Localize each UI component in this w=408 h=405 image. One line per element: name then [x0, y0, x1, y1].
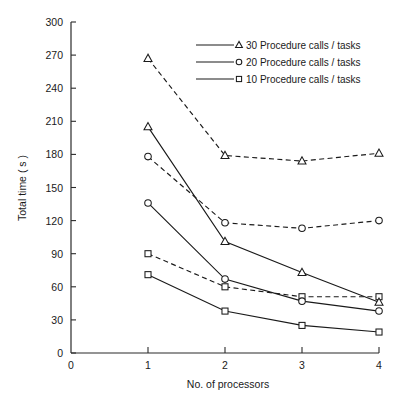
x-axis-ticks: 01234: [68, 347, 382, 371]
y-tick-label: 180: [45, 148, 63, 160]
y-tick-label: 210: [45, 115, 63, 127]
series-polyline: [148, 275, 379, 332]
x-axis-title: No. of processors: [187, 378, 269, 390]
chart-container: 0306090120150180210240270300 01234 Total…: [0, 0, 408, 405]
data-point-square: [299, 322, 305, 328]
series-0: [144, 54, 383, 164]
data-point-circle: [222, 220, 229, 227]
data-point-triangle: [221, 237, 229, 244]
y-axis-title: Total time ( s ): [16, 155, 28, 221]
chart-legend: 30 Procedure calls / tasks20 Procedure c…: [196, 40, 361, 85]
legend-label: 20 Procedure calls / tasks: [246, 57, 361, 68]
data-point-triangle: [144, 54, 152, 61]
series-polyline: [148, 127, 379, 302]
x-tick-label: 2: [222, 359, 228, 371]
legend-label: 30 Procedure calls / tasks: [246, 40, 361, 51]
data-point-triangle: [375, 149, 383, 156]
data-point-square: [376, 329, 382, 335]
series-2: [145, 251, 382, 300]
data-point-square: [236, 76, 241, 81]
x-tick-label: 1: [145, 359, 151, 371]
y-tick-label: 30: [51, 314, 63, 326]
line-chart: 0306090120150180210240270300 01234 Total…: [0, 0, 408, 405]
y-tick-label: 60: [51, 281, 63, 293]
legend-item-2: 10 Procedure calls / tasks: [196, 74, 361, 85]
series-5: [145, 272, 382, 335]
x-tick-label: 4: [376, 359, 382, 371]
y-tick-label: 240: [45, 82, 63, 94]
data-point-circle: [236, 59, 242, 65]
data-point-circle: [145, 200, 152, 207]
data-point-square: [145, 251, 151, 257]
legend-label: 10 Procedure calls / tasks: [246, 74, 361, 85]
data-point-circle: [376, 308, 383, 315]
y-tick-label: 150: [45, 182, 63, 194]
data-point-square: [222, 284, 228, 290]
data-point-circle: [376, 217, 383, 224]
data-point-circle: [145, 153, 152, 160]
data-point-square: [145, 272, 151, 278]
data-point-square: [222, 308, 228, 314]
y-tick-label: 120: [45, 215, 63, 227]
data-point-circle: [299, 298, 306, 305]
y-tick-label: 270: [45, 49, 63, 61]
series-3: [144, 123, 383, 306]
legend-item-0: 30 Procedure calls / tasks: [196, 40, 361, 51]
data-point-circle: [299, 225, 306, 232]
series-1: [145, 153, 383, 231]
x-tick-label: 3: [299, 359, 305, 371]
data-point-circle: [222, 276, 229, 283]
series-polyline: [148, 157, 379, 229]
y-tick-label: 90: [51, 248, 63, 260]
data-point-triangle: [236, 41, 243, 47]
y-tick-label: 0: [57, 347, 63, 359]
x-tick-label: 0: [68, 359, 74, 371]
legend-item-1: 20 Procedure calls / tasks: [196, 57, 361, 68]
data-point-triangle: [144, 123, 152, 130]
y-tick-label: 300: [45, 16, 63, 28]
series-layer: [144, 54, 383, 335]
